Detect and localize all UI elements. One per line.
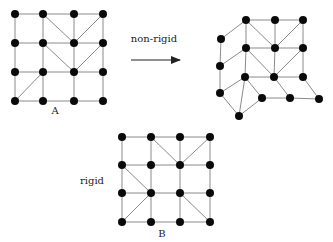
node (235, 112, 243, 120)
edge (122, 193, 151, 222)
node (11, 68, 19, 76)
edge (15, 72, 43, 101)
node (147, 133, 155, 141)
node (299, 44, 307, 52)
diagram-canvas: non-rigid rigid A B (0, 0, 333, 242)
node (271, 16, 279, 24)
node (70, 97, 78, 105)
node (242, 16, 250, 24)
node (270, 73, 278, 81)
edge (246, 20, 275, 48)
node (271, 44, 279, 52)
edge (275, 20, 303, 48)
node (206, 218, 214, 226)
edge (43, 14, 74, 43)
node (241, 73, 249, 81)
edge (180, 193, 210, 222)
edge (74, 14, 103, 43)
edge (303, 77, 319, 99)
edge (245, 48, 246, 77)
node (11, 10, 19, 18)
node (70, 10, 78, 18)
non-rigid-arrow: non-rigid (131, 33, 180, 60)
node (176, 161, 184, 169)
node (99, 68, 107, 76)
node (176, 133, 184, 141)
edge (239, 98, 262, 116)
node (176, 218, 184, 226)
node (39, 68, 47, 76)
edge (180, 137, 210, 165)
edge (221, 20, 246, 39)
node (11, 39, 19, 47)
node (99, 39, 107, 47)
node (206, 133, 214, 141)
node (299, 73, 307, 81)
node (176, 189, 184, 197)
node (118, 161, 126, 169)
node (206, 161, 214, 169)
edge (274, 48, 275, 77)
node (242, 44, 250, 52)
node (39, 10, 47, 18)
grid-b-rigid (118, 133, 214, 226)
node (147, 189, 155, 197)
grid-a-original (11, 10, 107, 105)
edge (220, 48, 246, 66)
grid-b-label: B (158, 228, 165, 239)
node (99, 10, 107, 18)
node (206, 189, 214, 197)
node (217, 35, 225, 43)
rigid-label: rigid (80, 175, 105, 186)
edge (274, 48, 303, 77)
node (147, 218, 155, 226)
edge (245, 77, 262, 98)
edge (220, 93, 239, 116)
node (11, 97, 19, 105)
node (286, 94, 294, 102)
node (147, 161, 155, 169)
edge (220, 39, 221, 66)
edge (239, 77, 245, 116)
grid-a-label: A (50, 105, 59, 116)
node (70, 68, 78, 76)
node (216, 62, 224, 70)
edge (43, 43, 74, 72)
edge (246, 48, 274, 77)
edge (220, 77, 245, 93)
node (315, 95, 323, 103)
node (99, 97, 107, 105)
node (118, 218, 126, 226)
node (70, 39, 78, 47)
edge (122, 165, 151, 193)
node (299, 16, 307, 24)
node (216, 89, 224, 97)
node (258, 94, 266, 102)
edge (290, 98, 319, 99)
grid-deformed-non-rigid (216, 16, 323, 120)
edge (151, 137, 180, 165)
node (118, 189, 126, 197)
node (39, 97, 47, 105)
edge (74, 43, 103, 72)
non-rigid-label: non-rigid (131, 33, 178, 44)
node (118, 133, 126, 141)
node (39, 39, 47, 47)
